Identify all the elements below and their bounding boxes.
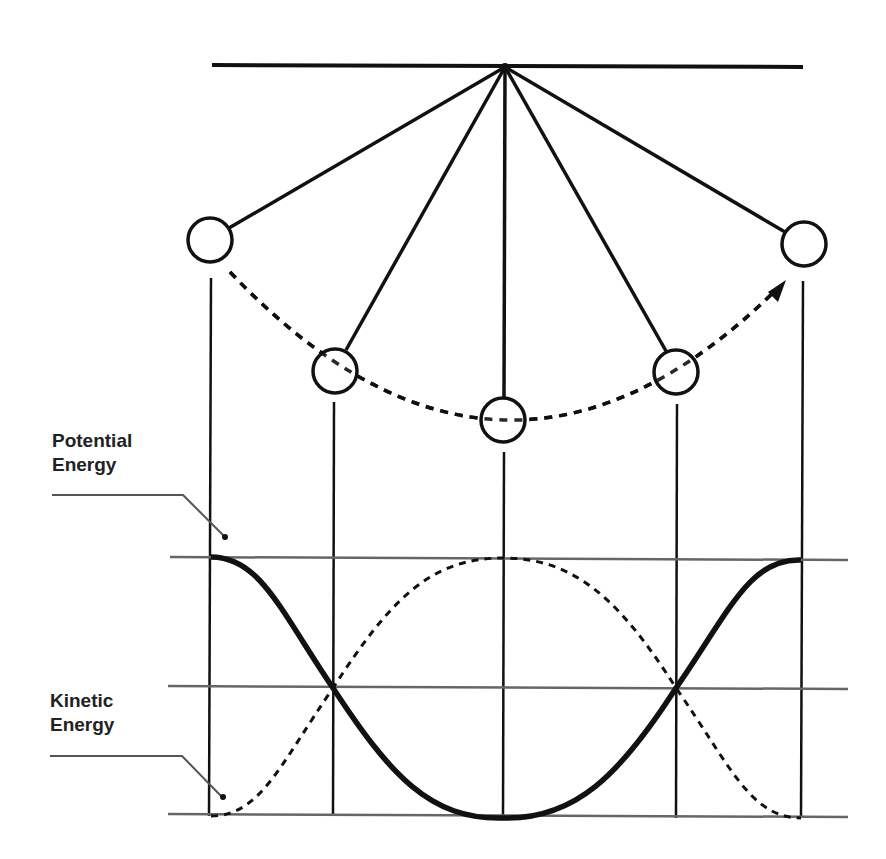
bob-far-right — [782, 222, 826, 266]
potential-leader-line — [52, 495, 226, 538]
bob-far-left — [188, 218, 232, 262]
kinetic-leader-dot — [220, 794, 226, 800]
potential-leader-dot — [222, 534, 228, 540]
arrow-head-icon — [768, 280, 786, 302]
potential-energy-label: Potential Energy — [52, 429, 132, 477]
pendulum-energy-diagram — [0, 0, 886, 859]
vertical-guide-lines — [209, 278, 803, 818]
kinetic-leader-line — [50, 756, 222, 797]
bob-mid-right — [654, 350, 698, 394]
pendulum-bobs — [188, 218, 826, 442]
kinetic-energy-label: Kinetic Energy — [50, 689, 114, 737]
